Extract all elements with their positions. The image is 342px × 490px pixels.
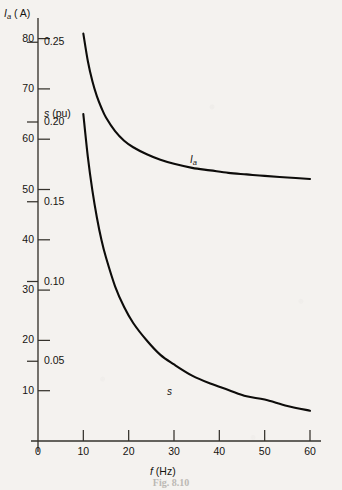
curve-label-slip: s — [167, 387, 172, 397]
curve-label-ia-subscript: a — [193, 158, 197, 167]
tick-label: 30 — [165, 446, 183, 457]
tick-label: 50 — [0, 184, 34, 195]
y-axis-secondary-symbol: s — [44, 107, 49, 119]
tick-label: 40 — [0, 234, 34, 245]
tick-label: 50 — [256, 446, 274, 457]
y-axis-secondary-unit: (pu) — [52, 107, 71, 119]
y-ticks-primary — [38, 39, 50, 391]
tick-label: 40 — [210, 446, 228, 457]
tick-label: 30 — [0, 284, 34, 295]
tick-label: 0.15 — [44, 196, 64, 207]
tick-label: 60 — [301, 446, 319, 457]
y-axis-primary-subscript: a — [7, 12, 11, 21]
x-axis-title: f (Hz) — [150, 466, 176, 477]
tick-label: 70 — [0, 83, 34, 94]
tick-label: 10 — [74, 446, 92, 457]
tick-label: 0.05 — [44, 355, 64, 366]
tick-label: 80 — [0, 33, 34, 44]
tick-label: 0.25 — [44, 36, 64, 47]
y-axis-primary-title: Ia ( A) — [4, 8, 30, 21]
y-axis-primary-unit: ( A) — [14, 7, 30, 19]
tick-label: 20 — [0, 334, 34, 345]
x-ticks — [83, 430, 310, 441]
curve-label-armature-current: Ia — [190, 155, 197, 167]
figure-caption: Fig. 8.10 — [0, 477, 342, 489]
tick-label: 10 — [0, 385, 34, 396]
tick-label: 20 — [120, 446, 138, 457]
tick-label: 0.10 — [44, 276, 64, 287]
x-axis-unit: (Hz) — [156, 465, 176, 477]
y-axis-secondary-title: s (pu) — [44, 108, 71, 119]
tick-label: 60 — [0, 133, 34, 144]
tick-label: 0 — [29, 446, 47, 457]
